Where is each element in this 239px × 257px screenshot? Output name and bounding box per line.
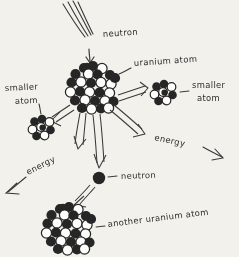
label-smaller-atom-right-line2: atom: [197, 93, 220, 103]
neutron-trail-lines: [63, 1, 93, 37]
energy-right-arrow: [203, 147, 223, 160]
label-smaller-atom-right-line1: smaller: [192, 80, 226, 90]
uranium-atom-main: [65, 61, 120, 114]
arrow-to-smaller-atom-right: [118, 82, 148, 101]
leader-smaller-atom-left: [39, 104, 41, 114]
arrow-energy-left: [74, 113, 86, 149]
uranium-atom-bottom: [41, 202, 96, 255]
arrow-to-neutron-middle: [93, 114, 106, 168]
label-another-uranium-atom: another uranium atom: [107, 207, 209, 229]
arrow-neutron-to-bottom-uranium: [74, 185, 95, 207]
label-neutron-middle: neutron: [121, 170, 157, 181]
smaller-atom-left: [28, 115, 55, 141]
label-uranium-atom: uranium atom: [133, 54, 197, 68]
energy-left-arrow: [6, 177, 26, 194]
leader-smaller-atom-right: [180, 91, 189, 92]
neutron-middle: [93, 172, 105, 184]
label-energy-right: energy: [154, 132, 187, 148]
arrow-energy-right: [110, 105, 145, 137]
label-smaller-atom-left-line2: atom: [15, 95, 39, 106]
smaller-atom-right: [150, 80, 177, 106]
arrow-neutron-to-uranium: [86, 49, 94, 63]
leader-neutron-middle: [108, 176, 117, 177]
fission-diagram: neutron uranium atom smaller atom smalle…: [0, 0, 239, 257]
leader-uranium-atom: [119, 68, 131, 74]
leader-another-uranium-atom: [96, 226, 105, 227]
label-energy-left: energy: [24, 154, 56, 177]
label-neutron-top: neutron: [102, 27, 138, 39]
label-smaller-atom-left-line1: smaller: [5, 81, 39, 93]
arrow-to-smaller-atom-left: [51, 105, 74, 126]
